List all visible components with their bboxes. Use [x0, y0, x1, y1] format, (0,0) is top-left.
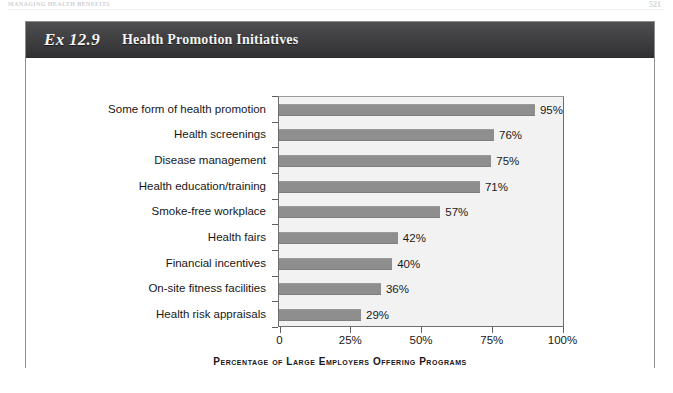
bar [279, 309, 361, 321]
category-label: Health screenings [66, 122, 272, 148]
y-axis-tick [272, 199, 278, 200]
plot-area: 95%76%75%71%57%42%40%36%29% [278, 96, 564, 327]
exhibit-title: Health Promotion Initiatives [122, 32, 298, 48]
category-label: Some form of health promotion [66, 96, 272, 122]
x-axis-tick-label: 0 [276, 334, 282, 346]
x-axis-tick-label: 50% [409, 334, 432, 346]
bar-row: 95% [279, 97, 563, 123]
exhibit-title-bar: Ex 12.9 Health Promotion Initiatives [26, 22, 654, 58]
exhibit-panel: Ex 12.9 Health Promotion Initiatives Som… [25, 21, 655, 368]
bar-row: 75% [279, 148, 563, 174]
bar [279, 258, 392, 270]
category-label: Health risk appraisals [66, 301, 272, 327]
bar-value-label: 29% [366, 309, 389, 321]
bar-value-label: 42% [403, 232, 426, 244]
bar-row: 29% [279, 302, 563, 328]
bar [279, 206, 440, 218]
exhibit-number: Ex 12.9 [44, 30, 100, 50]
y-axis-tick [272, 224, 278, 225]
y-axis-tick [272, 96, 278, 97]
x-axis-tick [492, 327, 493, 333]
bar [279, 181, 480, 193]
bar-value-label: 95% [540, 104, 563, 116]
x-axis-tick-label: 25% [339, 334, 362, 346]
y-axis-tick [272, 250, 278, 251]
chart-area: Some form of health promotionHealth scre… [26, 58, 654, 368]
x-axis-tick [350, 327, 351, 333]
category-label: Smoke-free workplace [66, 199, 272, 225]
page-number: 521 [649, 0, 661, 9]
bar-row: 57% [279, 200, 563, 226]
category-axis-labels: Some form of health promotionHealth scre… [66, 96, 272, 327]
category-label: On-site fitness facilities [66, 276, 272, 302]
y-axis-tick [272, 147, 278, 148]
running-head: MANAGING HEALTH BENEFITS [8, 1, 110, 7]
bar-value-label: 40% [397, 258, 420, 270]
bar-value-label: 75% [496, 155, 519, 167]
header-rule [8, 9, 665, 10]
bar-row: 71% [279, 174, 563, 200]
x-axis-tick-label: 100% [548, 334, 577, 346]
x-axis-tick [280, 327, 281, 333]
y-axis-tick [272, 276, 278, 277]
bar-value-label: 36% [386, 283, 409, 295]
y-axis-tick [272, 327, 278, 328]
bar [279, 283, 381, 295]
bar-value-label: 57% [445, 206, 468, 218]
bar [279, 232, 398, 244]
bar-row: 42% [279, 225, 563, 251]
bar [279, 129, 494, 141]
bar [279, 104, 535, 116]
bar-row: 36% [279, 277, 563, 303]
y-axis-tick [272, 301, 278, 302]
y-axis-tick [272, 122, 278, 123]
bar-rows: 95%76%75%71%57%42%40%36%29% [279, 97, 563, 326]
category-label: Health fairs [66, 224, 272, 250]
category-label: Health education/training [66, 173, 272, 199]
bar-value-label: 71% [485, 181, 508, 193]
bar-value-label: 76% [499, 129, 522, 141]
bar [279, 155, 491, 167]
x-axis-title: Percentage of Large Employers Offering P… [26, 356, 654, 367]
x-axis-tick [563, 327, 564, 333]
y-axis-tick [272, 173, 278, 174]
x-axis-tick [421, 327, 422, 333]
category-label: Financial incentives [66, 250, 272, 276]
category-label: Disease management [66, 147, 272, 173]
bar-row: 76% [279, 123, 563, 149]
bar-row: 40% [279, 251, 563, 277]
x-axis-tick-label: 75% [480, 334, 503, 346]
